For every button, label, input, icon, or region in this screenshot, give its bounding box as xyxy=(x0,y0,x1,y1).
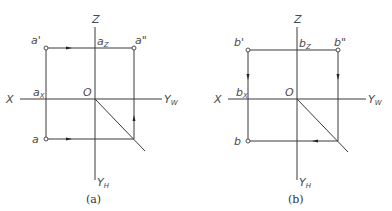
point-b-top xyxy=(246,139,250,143)
arrow-left-icon xyxy=(312,140,318,143)
point-label-b-front: b' xyxy=(234,36,244,49)
point-label-az: aZ xyxy=(97,35,109,49)
caption-a: (a) xyxy=(86,193,101,206)
miter-line-b xyxy=(297,99,348,152)
arrow-down-icon xyxy=(247,74,250,80)
point-label-bx: bX xyxy=(236,86,248,100)
point-label-b-top: b xyxy=(234,135,241,148)
point-a-front xyxy=(44,46,48,50)
point-label-b-side: b" xyxy=(334,36,346,49)
arrow-up-icon xyxy=(133,115,136,121)
miter-line-a xyxy=(95,99,145,151)
point-label-a-front: a' xyxy=(31,34,41,47)
figure-a: Z X YW YH O a' a" a aX aZ (a) xyxy=(5,13,179,206)
arrow-down-icon xyxy=(337,74,340,80)
x-axis-label-b: X xyxy=(213,93,222,106)
point-b-front xyxy=(246,48,250,52)
origin-label-b: O xyxy=(285,86,294,99)
yh-axis-label-a: YH xyxy=(97,176,110,190)
yw-axis-label-b: YW xyxy=(368,93,383,107)
projection-diagrams: Z X YW YH O a' a" a aX aZ (a) Z X YW xyxy=(0,0,392,211)
point-a-top xyxy=(44,137,48,141)
yw-axis-label-a: YW xyxy=(164,93,179,107)
point-label-a-side: a" xyxy=(135,34,147,47)
point-label-ax: aX xyxy=(33,86,45,100)
figure-b: Z X YW YH O b' b" b bX bZ (b) xyxy=(213,13,383,206)
yh-axis-label-b: YH xyxy=(299,176,312,190)
arrow-right-icon xyxy=(66,47,72,50)
z-axis-label-b: Z xyxy=(293,13,302,26)
z-axis-label-a: Z xyxy=(91,13,100,26)
x-axis-label-a: X xyxy=(5,93,14,106)
point-label-bz: bZ xyxy=(299,37,311,51)
origin-label-a: O xyxy=(83,86,92,99)
caption-b: (b) xyxy=(288,193,304,206)
arrow-right-icon xyxy=(66,138,72,141)
point-label-a-top: a xyxy=(32,133,39,146)
